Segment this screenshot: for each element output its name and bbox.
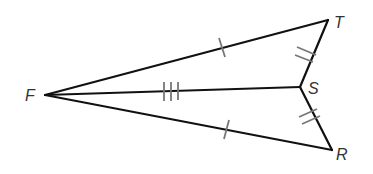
segment-FS — [45, 87, 300, 95]
kite-diagram: F T S R — [0, 0, 373, 174]
segment-FR — [45, 95, 332, 150]
segment-FT — [45, 20, 328, 95]
label-T: T — [334, 14, 345, 31]
label-S: S — [308, 80, 319, 97]
tick-mark-TS — [295, 47, 316, 62]
label-F: F — [25, 87, 36, 104]
label-R: R — [336, 146, 348, 163]
